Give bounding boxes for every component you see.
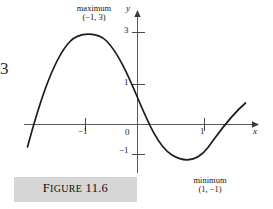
caption-number: 11.6 bbox=[86, 181, 109, 195]
y-tick-label-3: 3 bbox=[124, 26, 129, 35]
minimum-annotation-point: (1, −1) bbox=[172, 185, 248, 194]
caption-word-lead: F bbox=[43, 181, 50, 195]
x-axis-label: x bbox=[253, 127, 257, 136]
y-tick-label-minus-1: −1 bbox=[119, 146, 129, 155]
x-tick-label-1: 1 bbox=[200, 127, 205, 136]
figure-page: 3 y x 3 1 −1 0 −1 1 maximum (−1, 3) bbox=[0, 0, 273, 209]
figure-caption: FIGURE 11.6 bbox=[14, 181, 137, 196]
y-axis-arrowhead bbox=[134, 10, 140, 17]
caption-word-rest: IGURE bbox=[50, 183, 82, 194]
minimum-annotation: minimum (1, −1) bbox=[172, 176, 248, 194]
origin-label: 0 bbox=[125, 128, 130, 137]
maximum-annotation: maximum (−1, 3) bbox=[56, 4, 132, 22]
x-tick-label-minus-1: −1 bbox=[78, 127, 88, 136]
cubic-graph-curve bbox=[28, 34, 246, 160]
maximum-annotation-point: (−1, 3) bbox=[56, 13, 132, 22]
y-tick-label-1: 1 bbox=[124, 78, 129, 87]
